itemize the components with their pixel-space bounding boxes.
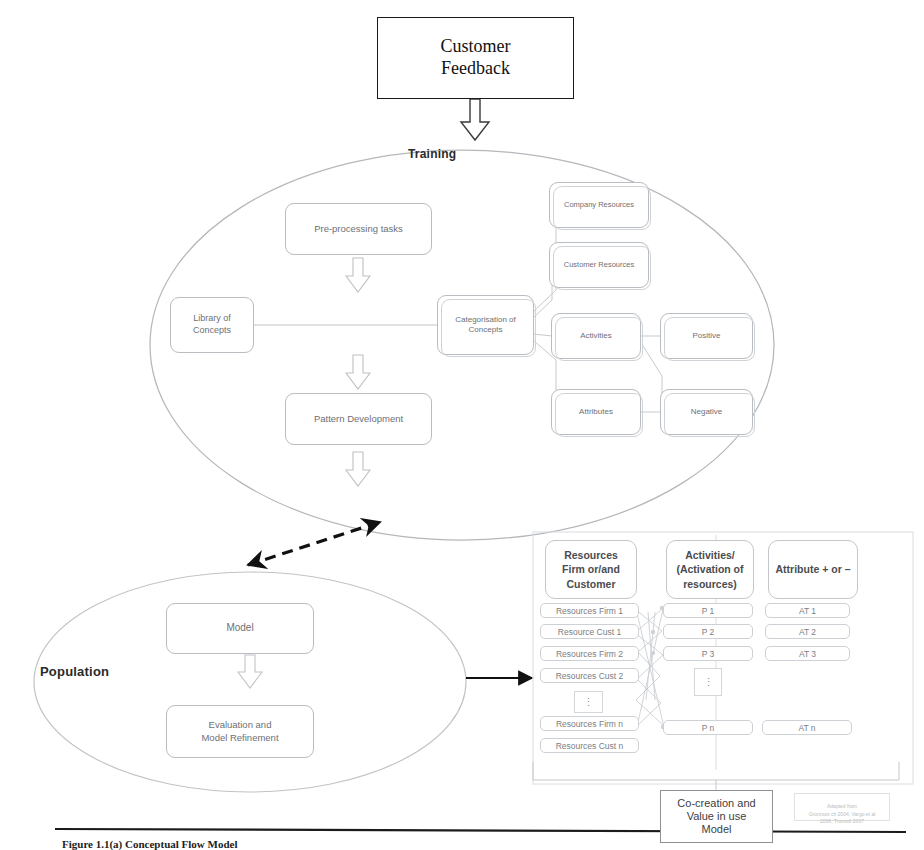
- down-block-arrow-icon-model-to-evaluation: [238, 655, 262, 688]
- pattern-development-label: Pattern Development: [314, 413, 403, 425]
- matrix-cell-activity: P 3: [663, 646, 753, 661]
- matrix-cell-attribute: AT n: [762, 720, 852, 735]
- matrix-cell-label: AT 1: [799, 606, 816, 616]
- library-of-concepts-box: Library of Concepts: [170, 297, 254, 353]
- caption-rule: [55, 829, 906, 832]
- matrix-header-resources: Resources Firm or/and Customer: [545, 540, 637, 599]
- evaluation-model-refinement-box: Evaluation and Model Refinement: [166, 705, 314, 758]
- citation-note-text: Adapted from Gronroos ch 2004, Vargo et …: [809, 803, 876, 824]
- categorisation-of-concepts-label: Categorisation of Concepts: [455, 315, 515, 335]
- evaluation-model-refinement-label: Evaluation and Model Refinement: [201, 719, 278, 743]
- matrix-header-activities-label: Activities/ (Activation of resources): [676, 548, 743, 591]
- matrix-cell-label: AT 3: [799, 649, 816, 659]
- matrix-cell-attribute: AT 2: [765, 624, 850, 639]
- citation-note: Adapted from Gronroos ch 2004, Vargo et …: [794, 793, 890, 821]
- matrix-cell-resource: Resources Firm n: [540, 716, 639, 731]
- matrix-cell-label: Resources Firm n: [556, 719, 623, 729]
- matrix-cell-label: Resources Firm 1: [556, 606, 623, 616]
- matrix-header-activities: Activities/ (Activation of resources): [666, 540, 754, 599]
- matrix-resources-ellipsis-glyph: ⋮: [583, 696, 594, 709]
- matrix-cell-activity: P n: [663, 720, 753, 735]
- matrix-cell-label: AT n: [798, 723, 815, 733]
- population-ellipse-label: Population: [40, 664, 109, 679]
- matrix-cell-label: AT 2: [799, 627, 816, 637]
- matrix-cell-label: Resources Cust 2: [556, 671, 624, 681]
- down-block-arrow-icon-feedback: [461, 99, 489, 140]
- positive-box: Positive: [660, 313, 753, 359]
- down-block-arrow-icon-preproc-to-library: [346, 258, 370, 292]
- down-block-arrow-icon-library-to-pattern: [346, 355, 370, 389]
- matrix-cell-label: P 2: [702, 627, 715, 637]
- matrix-cell-attribute: AT 3: [765, 646, 850, 661]
- model-label: Model: [226, 622, 253, 635]
- connectors-categories-to-polarity: [641, 336, 662, 412]
- matrix-cell-label: P n: [702, 723, 715, 733]
- company-resources-label: Company Resources: [564, 200, 634, 210]
- matrix-resources-ellipsis: ⋮: [574, 691, 603, 713]
- matrix-cell-attribute: AT 1: [765, 603, 850, 618]
- training-label-text: Training: [408, 147, 456, 161]
- matrix-cell-label: P 3: [702, 649, 715, 659]
- negative-box: Negative: [660, 389, 753, 435]
- down-block-arrow-icon-pattern-out: [346, 452, 370, 486]
- activities-label: Activities: [580, 331, 612, 341]
- matrix-cell-label: P 1: [702, 606, 715, 616]
- resource-activity-mapping-lines: [635, 609, 664, 727]
- matrix-header-resources-label: Resources Firm or/and Customer: [562, 548, 620, 591]
- model-box: Model: [166, 603, 314, 654]
- matrix-header-attributes: Attribute + or –: [768, 540, 858, 599]
- categorisation-of-concepts-box: Categorisation of Concepts: [437, 295, 534, 355]
- matrix-cell-resource: Resources Firm 2: [540, 646, 639, 661]
- matrix-cell-activity: P 2: [663, 624, 753, 639]
- cocreation-value-in-use-box: Co-creation and Value in use Model: [660, 790, 773, 843]
- training-ellipse-label: Training: [408, 147, 456, 161]
- customer-resources-label: Customer Resources: [564, 260, 634, 270]
- activities-box: Activities: [551, 313, 641, 359]
- customer-resources-box: Customer Resources: [549, 242, 649, 288]
- preprocessing-tasks-label: Pre-processing tasks: [314, 223, 403, 235]
- matrix-footer-bracket: [533, 762, 899, 792]
- matrix-cell-label: Resource Cust 1: [558, 627, 621, 637]
- matrix-cell-activity: P 1: [663, 603, 753, 618]
- matrix-activities-ellipsis: ⋮: [694, 668, 722, 696]
- library-of-concepts-label: Library of Concepts: [193, 313, 231, 336]
- matrix-header-attributes-label: Attribute + or –: [776, 562, 851, 576]
- matrix-cell-label: Resources Firm 2: [556, 649, 623, 659]
- preprocessing-tasks-box: Pre-processing tasks: [285, 203, 432, 255]
- matrix-cell-label: Resources Cust n: [556, 741, 624, 751]
- pattern-development-box: Pattern Development: [285, 393, 432, 445]
- attributes-box: Attributes: [551, 389, 641, 435]
- company-resources-box: Company Resources: [549, 182, 649, 228]
- matrix-cell-resource: Resources Firm 1: [540, 603, 639, 618]
- negative-label: Negative: [691, 407, 723, 417]
- figure-caption: Figure 1.1(a) Conceptual Flow Model: [62, 838, 237, 850]
- bidirectional-dashed-arrow-icon: [248, 522, 380, 565]
- matrix-cell-resource: Resources Cust n: [540, 738, 639, 753]
- customer-feedback-label: Customer Feedback: [441, 36, 511, 79]
- matrix-cell-resource: Resources Cust 2: [540, 668, 639, 683]
- connectors-categorisation-to-categories: [533, 212, 556, 410]
- customer-feedback-box: Customer Feedback: [377, 17, 574, 99]
- population-label-text: Population: [40, 664, 109, 679]
- attributes-label: Attributes: [579, 407, 613, 417]
- cocreation-value-in-use-label: Co-creation and Value in use Model: [677, 797, 755, 837]
- figure-caption-text: Figure 1.1(a) Conceptual Flow Model: [62, 838, 237, 850]
- resource-activity-mapping-nodes: [651, 606, 665, 729]
- matrix-activities-ellipsis-glyph: ⋮: [703, 676, 714, 689]
- positive-label: Positive: [692, 331, 720, 341]
- matrix-cell-resource: Resource Cust 1: [540, 624, 639, 639]
